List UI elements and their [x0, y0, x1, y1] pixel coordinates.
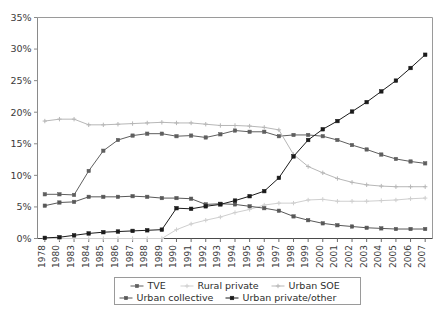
- y-tick-label: 25%: [10, 75, 31, 86]
- x-tick-label: 1997: [271, 245, 281, 268]
- data-point-marker: [233, 129, 236, 132]
- x-tick-label: 2006: [403, 245, 413, 268]
- data-point-marker: [160, 228, 164, 232]
- y-tick-label: 15%: [10, 138, 31, 149]
- data-point-marker: [350, 225, 353, 228]
- data-point-marker: [263, 206, 266, 209]
- x-tick-label: 1990: [168, 245, 178, 268]
- x-tick-label: 1995: [242, 245, 252, 268]
- data-point-marker: [423, 162, 426, 165]
- data-point-marker: [380, 153, 383, 156]
- data-point-marker: [43, 193, 46, 196]
- y-tick-label: 30%: [10, 43, 31, 54]
- x-tick-label: 1994: [227, 245, 237, 268]
- data-point-marker: [409, 66, 413, 70]
- data-point-marker: [306, 133, 309, 136]
- data-point-marker: [409, 227, 412, 230]
- data-point-marker: [219, 133, 222, 136]
- data-point-marker: [350, 143, 353, 146]
- data-point-marker: [116, 195, 119, 198]
- data-point-marker: [321, 222, 324, 225]
- employment-share-line-chart: 0%5%10%15%20%25%30%35% 19781980198319841…: [0, 0, 446, 323]
- data-point-marker: [146, 132, 149, 135]
- data-point-marker: [409, 160, 412, 163]
- data-point-marker: [116, 230, 120, 234]
- data-point-marker: [204, 205, 208, 209]
- data-point-marker: [87, 195, 90, 198]
- data-point-marker: [72, 234, 76, 238]
- legend-label: Urban SOE: [289, 280, 340, 291]
- data-point-marker: [87, 169, 90, 172]
- x-tick-label: 1992: [198, 245, 208, 268]
- x-tick-label: 1980: [51, 245, 61, 268]
- x-tick-label: 1978: [37, 245, 47, 268]
- data-point-marker: [219, 203, 223, 207]
- data-point-marker: [248, 194, 252, 198]
- data-point-marker: [58, 193, 61, 196]
- x-tick-label: 2003: [359, 245, 369, 268]
- x-tick-label: 1987: [125, 245, 135, 268]
- chart-canvas: 0%5%10%15%20%25%30%35% 19781980198319841…: [0, 0, 446, 323]
- data-point-marker: [233, 199, 237, 203]
- y-tick-label: 0%: [16, 233, 31, 244]
- data-point-marker: [160, 196, 163, 199]
- data-point-marker: [189, 197, 192, 200]
- data-point-marker: [175, 206, 179, 210]
- data-point-marker: [135, 284, 138, 287]
- data-point-marker: [58, 235, 62, 239]
- data-point-marker: [277, 209, 280, 212]
- data-point-marker: [248, 130, 251, 133]
- data-point-marker: [380, 227, 383, 230]
- data-point-marker: [336, 138, 339, 141]
- legend-label: Urban private/other: [243, 292, 337, 303]
- x-tick-label: 1993: [212, 245, 222, 268]
- data-point-marker: [321, 127, 325, 131]
- data-point-marker: [189, 134, 192, 137]
- data-point-marker: [204, 136, 207, 139]
- x-tick-label: 1991: [183, 245, 193, 268]
- x-tick-label: 2002: [344, 245, 354, 268]
- data-point-marker: [394, 227, 397, 230]
- data-point-marker: [292, 215, 295, 218]
- legend-label: Urban collective: [137, 292, 214, 303]
- legend-item-urban-private-other[interactable]: Urban private/other: [226, 292, 337, 303]
- data-point-marker: [72, 200, 75, 203]
- data-point-marker: [263, 130, 266, 133]
- x-tick-label: 2007: [417, 245, 427, 268]
- data-point-marker: [365, 226, 368, 229]
- x-tick-label: 1983: [66, 245, 76, 268]
- data-point-marker: [131, 194, 134, 197]
- data-point-marker: [102, 195, 105, 198]
- data-point-marker: [131, 134, 134, 137]
- data-point-marker: [160, 132, 163, 135]
- data-point-marker: [336, 224, 339, 227]
- data-point-marker: [292, 155, 296, 159]
- x-tick-label: 1988: [139, 245, 149, 268]
- x-tick-label: 2001: [329, 245, 339, 268]
- data-point-marker: [306, 138, 310, 142]
- legend-label: Rural private: [198, 280, 259, 291]
- data-point-marker: [87, 232, 91, 236]
- data-point-marker: [277, 176, 281, 180]
- legend-label: TVE: [147, 280, 166, 291]
- x-tick-label: 2000: [315, 245, 325, 268]
- x-tick-label: 1998: [286, 245, 296, 268]
- y-tick-label: 35%: [10, 12, 31, 23]
- data-point-marker: [58, 201, 61, 204]
- data-point-marker: [394, 79, 398, 83]
- data-point-marker: [175, 196, 178, 199]
- data-point-marker: [146, 195, 149, 198]
- data-point-marker: [145, 228, 149, 232]
- x-tick-label: 1999: [300, 245, 310, 268]
- x-tick-label: 1986: [110, 245, 120, 268]
- data-point-marker: [277, 135, 280, 138]
- data-point-marker: [365, 100, 369, 104]
- data-point-marker: [43, 236, 47, 240]
- data-point-marker: [72, 193, 75, 196]
- figure-caption: [6, 312, 442, 322]
- data-point-marker: [233, 203, 236, 206]
- chart-legend: TVERural privateUrban SOEUrban collectiv…: [115, 278, 361, 305]
- plot-background: [0, 0, 446, 323]
- data-point-marker: [380, 90, 384, 94]
- x-tick-label: 1989: [154, 245, 164, 268]
